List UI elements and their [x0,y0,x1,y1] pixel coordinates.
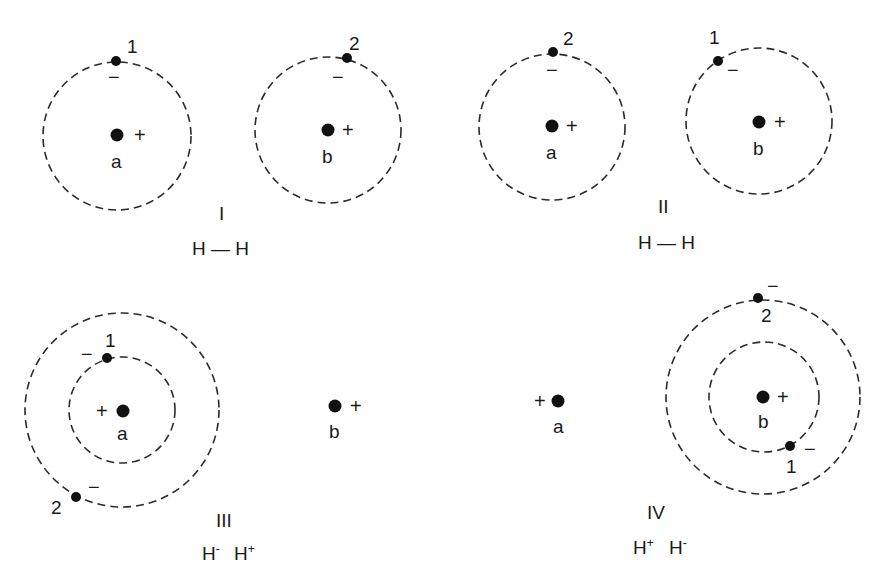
electron-charge-1: − [108,66,120,88]
structure-label-IV: IV [647,502,665,523]
panel-III: + a 1 − 2 − + b III H- H+ [25,313,362,564]
hydrogen-structures-diagram: + a 1 − + b 2 − I H — H + a 2 − + b 1 − … [0,0,879,579]
electron-number-2: 2 [349,33,360,54]
nucleus-atom-b [753,116,766,129]
electron-2 [548,47,558,57]
nucleus-atom-a [111,129,124,142]
panel-IV: + a + b 1 − 2 − IV H+ H- [534,275,860,558]
panel-II: + a 2 − + b 1 − II H — H [479,27,832,253]
structure-label-III: III [216,510,232,531]
electron-2 [71,492,81,502]
nucleus-charge-b: + [342,119,354,141]
formula-IV-atom-2: H- [669,536,687,558]
electron-charge-1: − [727,59,739,81]
nucleus-atom-a [552,395,565,408]
structure-label-II: II [658,196,669,217]
nucleus-charge-b: + [350,395,362,417]
nucleus-charge-a: + [566,115,578,137]
atom-label-b: b [329,421,340,442]
nucleus-atom-b [757,391,770,404]
atom-label-b: b [753,138,764,159]
formula-II: H — H [638,232,695,253]
electron-number-1: 1 [105,330,116,351]
electron-1 [102,353,112,363]
formula-IV-atom-1: H+ [633,536,654,558]
nucleus-charge-b: + [774,111,786,133]
nucleus-charge-a: + [134,124,146,146]
electron-charge-1: − [804,438,816,460]
formula-I: H — H [192,238,249,259]
nucleus-atom-a [117,405,130,418]
atom-label-b: b [758,411,769,432]
electron-number-2: 2 [51,497,62,518]
electron-number-1: 1 [127,36,138,57]
structure-label-I: I [219,203,224,224]
panel-I: + a 1 − + b 2 − I H — H [43,33,401,259]
electron-1 [785,441,795,451]
formula-III: H- H+ [202,542,255,564]
electron-2 [753,293,763,303]
electron-charge-2: − [767,275,779,297]
electron-1 [713,56,723,66]
electron-1 [111,56,121,66]
atom-label-a: a [111,151,122,172]
formula-III-atom-1: H- [202,542,220,564]
atom-label-a: a [546,142,557,163]
electron-charge-1: − [81,343,93,365]
nucleus-atom-a [546,120,559,133]
nucleus-charge-a: + [534,390,546,412]
electron-number-2: 2 [761,305,772,326]
electron-charge-2: − [332,66,344,88]
atom-label-a: a [117,423,128,444]
nucleus-atom-b [329,400,342,413]
electron-number-1: 1 [709,27,720,48]
electron-number-1: 1 [786,456,797,477]
electron-charge-2: − [88,476,100,498]
atom-label-b: b [322,146,333,167]
nucleus-atom-b [322,124,335,137]
nucleus-charge-b: + [777,386,789,408]
electron-charge-2: − [546,59,558,81]
formula-III-atom-2: H+ [234,542,255,564]
nucleus-charge-a: + [96,400,108,422]
formula-IV: H+ H- [633,536,687,558]
electron-number-2: 2 [563,28,574,49]
electron-2 [342,53,352,63]
atom-label-a: a [553,416,564,437]
